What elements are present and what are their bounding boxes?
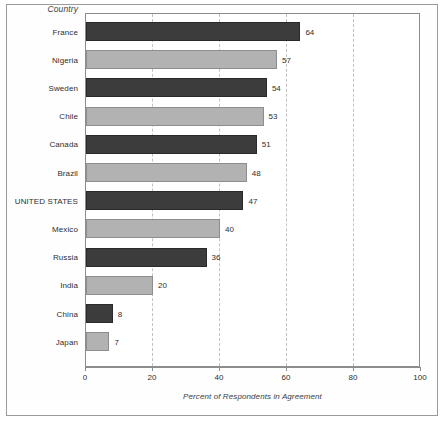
bar-france[interactable] <box>86 22 300 41</box>
bar-value-brazil: 48 <box>252 168 261 177</box>
x-tick-0 <box>85 367 86 371</box>
bar-row: UNITED STATES47 <box>0 191 444 210</box>
x-tick-100 <box>420 367 421 371</box>
bar-united-states[interactable] <box>86 191 243 210</box>
bar-value-japan: 7 <box>114 337 118 346</box>
x-tick-40 <box>219 367 220 371</box>
bar-row: Sweden54 <box>0 78 444 97</box>
bar-mexico[interactable] <box>86 219 220 238</box>
bar-chile[interactable] <box>86 107 264 126</box>
category-label-india: India <box>0 281 78 290</box>
x-tick-20 <box>152 367 153 371</box>
category-axis-header: Country <box>0 4 78 14</box>
bar-brazil[interactable] <box>86 163 247 182</box>
category-label-chile: Chile <box>0 112 78 121</box>
bar-india[interactable] <box>86 276 153 295</box>
bar-china[interactable] <box>86 304 113 323</box>
bar-value-russia: 36 <box>212 253 221 262</box>
bar-value-france: 64 <box>305 27 314 36</box>
bar-row: Brazil48 <box>0 163 444 182</box>
bar-value-chile: 53 <box>269 112 278 121</box>
bar-row: Japan7 <box>0 332 444 351</box>
x-axis-line <box>85 367 420 368</box>
bar-value-india: 20 <box>158 281 167 290</box>
horizontal-bar-chart: Country France64Nigeria57Sweden54Chile53… <box>0 0 444 426</box>
bar-sweden[interactable] <box>86 78 267 97</box>
category-label-sweden: Sweden <box>0 83 78 92</box>
x-tick-80 <box>353 367 354 371</box>
x-tick-label-20: 20 <box>148 373 157 382</box>
bar-row: Russia36 <box>0 248 444 267</box>
bar-row: Chile53 <box>0 107 444 126</box>
bar-value-china: 8 <box>118 309 122 318</box>
category-label-nigeria: Nigeria <box>0 55 78 64</box>
bar-row: Mexico40 <box>0 219 444 238</box>
bar-row: France64 <box>0 22 444 41</box>
bar-row: Nigeria57 <box>0 50 444 69</box>
category-label-china: China <box>0 309 78 318</box>
x-tick-label-0: 0 <box>83 373 87 382</box>
x-tick-60 <box>286 367 287 371</box>
category-label-france: France <box>0 27 78 36</box>
bar-value-mexico: 40 <box>225 224 234 233</box>
bar-value-canada: 51 <box>262 140 271 149</box>
bar-value-united-states: 47 <box>248 196 257 205</box>
category-label-united-states: UNITED STATES <box>0 196 78 205</box>
bar-value-sweden: 54 <box>272 83 281 92</box>
bar-value-nigeria: 57 <box>282 55 291 64</box>
bar-row: Canada51 <box>0 135 444 154</box>
bar-row: China8 <box>0 304 444 323</box>
bar-row: India20 <box>0 276 444 295</box>
category-label-mexico: Mexico <box>0 224 78 233</box>
category-label-russia: Russia <box>0 253 78 262</box>
bar-russia[interactable] <box>86 248 207 267</box>
bar-japan[interactable] <box>86 332 109 351</box>
x-tick-label-40: 40 <box>215 373 224 382</box>
x-axis-title: Percent of Respondents in Agreement <box>85 392 420 401</box>
bar-nigeria[interactable] <box>86 50 277 69</box>
x-tick-label-100: 100 <box>413 373 426 382</box>
x-tick-label-80: 80 <box>349 373 358 382</box>
category-label-brazil: Brazil <box>0 168 78 177</box>
category-label-canada: Canada <box>0 140 78 149</box>
x-tick-label-60: 60 <box>282 373 291 382</box>
bar-canada[interactable] <box>86 135 257 154</box>
category-label-japan: Japan <box>0 337 78 346</box>
